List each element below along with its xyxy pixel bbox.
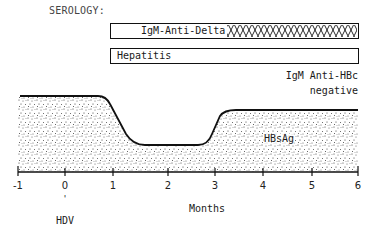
tick-label-2: 2 — [165, 180, 171, 191]
tick-label-minus-1: -1 — [13, 180, 23, 191]
igm-anti-hbc-annotation: IgM Anti-HBc — [286, 70, 358, 81]
igm-anti-delta-bar: IgM-Anti-Delta — [110, 23, 359, 39]
tick-label-6: 6 — [355, 180, 361, 191]
hepatitis-label: Hepatitis — [117, 50, 171, 61]
hbsag-label: HBsAg — [264, 133, 294, 144]
hbsag-area — [18, 96, 358, 172]
tick-label-1: 1 — [110, 180, 116, 191]
hepatitis-bar: Hepatitis — [110, 48, 359, 64]
tick-label-5: 5 — [309, 180, 315, 191]
hdv-label: HDV — [56, 215, 74, 226]
tick-label-4: 4 — [260, 180, 266, 191]
x-axis-title: Months — [189, 203, 225, 214]
negative-annotation: negative — [310, 85, 358, 96]
tick-label-0: 0 — [62, 180, 68, 191]
serology-label: SEROLOGY: — [49, 5, 105, 16]
hdv-marker-icon: ' — [64, 194, 66, 204]
igm-anti-delta-label: IgM-Anti-Delta — [141, 25, 227, 36]
tick-label-3: 3 — [212, 180, 218, 191]
